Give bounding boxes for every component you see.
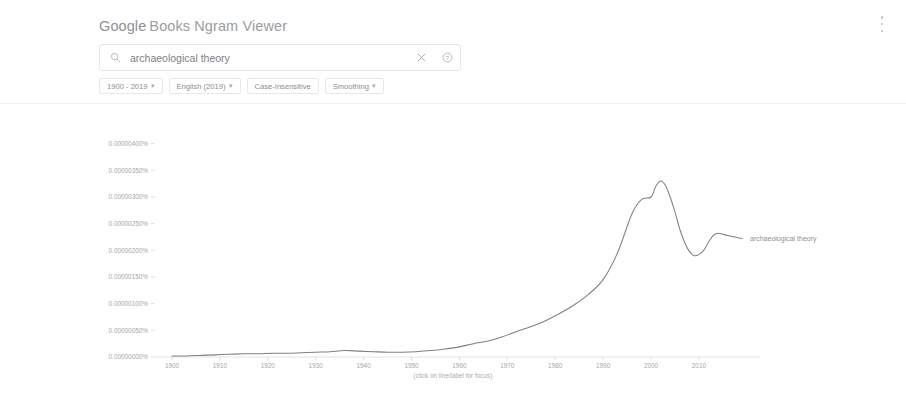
- svg-text:?: ?: [445, 55, 449, 61]
- y-axis-tick-label: 0.00000350%: [109, 167, 149, 174]
- ngram-viewer-page: GoogleBooks Ngram Viewer ? 1900 - 2019▾E…: [0, 0, 906, 400]
- x-axis-tick-label: 1980: [548, 362, 563, 369]
- kebab-menu-icon[interactable]: [875, 15, 889, 33]
- chart-focus-note: (click on line/label for focus): [0, 372, 906, 379]
- y-axis-tick-label: 0.00000050%: [109, 327, 149, 334]
- series-label-0[interactable]: archaeological theory: [750, 235, 817, 243]
- y-axis-tick-label: 0.00000150%: [109, 273, 149, 280]
- search-bar[interactable]: ?: [99, 44, 461, 71]
- x-axis-tick-label: 1910: [213, 362, 228, 369]
- x-axis-tick-label: 1970: [500, 362, 515, 369]
- header-divider: [0, 103, 906, 104]
- filter-chip-1[interactable]: English (2019)▾: [169, 78, 241, 94]
- y-axis-tick-label: 0.00000200%: [109, 247, 149, 254]
- close-icon[interactable]: [408, 45, 434, 70]
- y-axis-tick-label: 0.00000400%: [109, 140, 149, 147]
- x-axis-tick-label: 1950: [404, 362, 419, 369]
- x-axis-tick-label: 1990: [596, 362, 611, 369]
- filter-chip-label: 1900 - 2019: [107, 82, 148, 91]
- x-axis-tick-label: 1940: [356, 362, 371, 369]
- filter-chip-0[interactable]: 1900 - 2019▾: [99, 78, 163, 94]
- chevron-down-icon: ▾: [372, 83, 376, 90]
- filter-chip-label: English (2019): [177, 82, 226, 91]
- filter-chip-3[interactable]: Smoothing▾: [325, 78, 384, 94]
- page-title: GoogleBooks Ngram Viewer: [99, 18, 287, 34]
- x-axis-tick-label: 1900: [165, 362, 180, 369]
- x-axis-tick-label: 1930: [309, 362, 324, 369]
- ngram-chart[interactable]: 0.00000400%0.00000350%0.00000300%0.00000…: [0, 105, 906, 390]
- x-axis-tick-label: 2000: [644, 362, 659, 369]
- search-input[interactable]: [130, 52, 408, 64]
- filter-chip-label: Smoothing: [333, 82, 369, 91]
- filter-chip-2[interactable]: Case-Insensitive: [247, 78, 319, 94]
- x-axis-tick-label: 1920: [261, 362, 276, 369]
- chevron-down-icon: ▾: [151, 83, 155, 90]
- help-circle-icon[interactable]: ?: [434, 45, 460, 70]
- x-axis-tick-label: 2010: [692, 362, 707, 369]
- x-axis-tick-label: 1960: [452, 362, 467, 369]
- y-axis-tick-label: 0.00000250%: [109, 220, 149, 227]
- data-line-0[interactable]: [172, 181, 742, 356]
- y-axis-tick-label: 0.00000100%: [109, 300, 149, 307]
- google-logo: Google: [99, 18, 146, 34]
- y-axis-tick-label: 0.00000300%: [109, 193, 149, 200]
- search-icon: [100, 52, 130, 63]
- y-axis-tick-label: 0.00000000%: [109, 353, 149, 360]
- filter-chip-label: Case-Insensitive: [255, 82, 311, 91]
- filter-chip-row: 1900 - 2019▾English (2019)▾Case-Insensit…: [99, 78, 384, 94]
- chevron-down-icon: ▾: [229, 83, 233, 90]
